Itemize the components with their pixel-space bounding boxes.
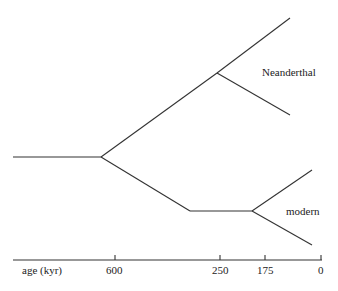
tick-label-0: 0	[318, 264, 324, 276]
upper-branch	[101, 73, 217, 157]
tick-label-600: 600	[106, 264, 123, 276]
lower-branch	[101, 157, 190, 211]
axis-title: age (kyr)	[22, 264, 62, 276]
neanderthal-label: Neanderthal	[262, 66, 316, 78]
upper-branch-continuation	[217, 18, 290, 73]
neanderthal-branch	[217, 73, 290, 115]
modern-label: modern	[286, 205, 320, 217]
tick-label-175: 175	[257, 264, 274, 276]
tick-label-250: 250	[212, 264, 229, 276]
tree-diagram	[0, 0, 338, 291]
